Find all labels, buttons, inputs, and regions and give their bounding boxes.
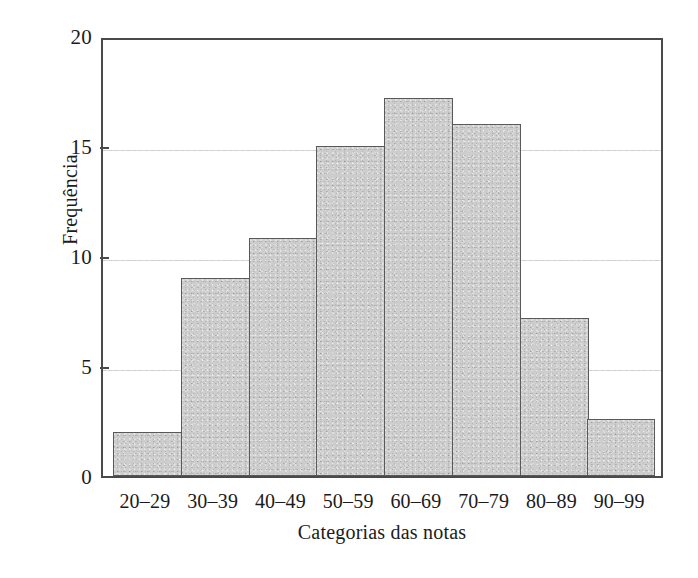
y-axis-tick-label: 5 — [81, 357, 92, 378]
bar — [113, 432, 182, 476]
y-axis-tick-label: 0 — [81, 467, 92, 488]
y-axis-tick-label: 20 — [70, 27, 92, 48]
bar — [452, 124, 521, 476]
bar — [520, 318, 589, 476]
bar — [587, 419, 655, 476]
x-axis-tick-label: 50–59 — [314, 489, 382, 513]
x-axis-tick-label: 80–89 — [518, 489, 586, 513]
x-axis-tick-label: 60–69 — [382, 489, 450, 513]
x-axis-tick-label: 90–99 — [585, 489, 653, 513]
x-axis-tick-labels: 20–2930–3940–4950–5960–6970–7980–8990–99 — [101, 489, 663, 517]
x-axis-tick-label: 70–79 — [450, 489, 518, 513]
x-axis-tick-label: 20–29 — [111, 489, 179, 513]
bar — [384, 98, 453, 476]
y-axis-tick-mark — [100, 257, 109, 259]
x-axis-title: Categorias das notas — [101, 521, 663, 544]
y-axis-tick-mark — [100, 147, 109, 149]
histogram-figure: 05101520 Frequência 20–2930–3940–4950–59… — [0, 0, 698, 578]
bar — [316, 146, 385, 476]
x-axis-tick-label: 30–39 — [179, 489, 247, 513]
bar — [249, 238, 318, 476]
y-axis-title: Frequência — [59, 100, 82, 300]
x-axis-tick-label: 40–49 — [247, 489, 315, 513]
y-axis-tick-mark — [100, 367, 109, 369]
bar — [181, 278, 250, 476]
